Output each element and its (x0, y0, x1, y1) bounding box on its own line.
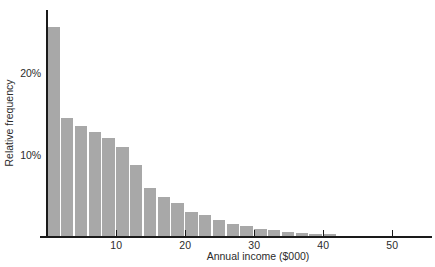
x-tick-label: 20 (179, 239, 191, 251)
histogram-bar (75, 126, 87, 237)
x-tick-label: 30 (248, 239, 260, 251)
histogram-bar (89, 132, 101, 237)
histogram-bar (213, 220, 225, 237)
histogram-bar (227, 224, 239, 237)
x-tick-label: 10 (110, 239, 122, 251)
bars-group (47, 27, 335, 237)
histogram-chart: 1020304050 10%20% Annual income ($000) R… (0, 0, 435, 267)
x-tick-label: 50 (386, 239, 398, 251)
chart-canvas: 1020304050 10%20% Annual income ($000) R… (0, 0, 435, 267)
histogram-bar (185, 212, 197, 237)
histogram-bar (199, 215, 211, 236)
x-tick-label: 40 (317, 239, 329, 251)
x-axis-title: Annual income ($000) (207, 250, 310, 262)
histogram-bar (47, 27, 59, 237)
histogram-bar (171, 203, 183, 237)
y-tick-label: 10% (20, 149, 41, 161)
histogram-bar (116, 147, 128, 236)
y-tick-label: 20% (20, 67, 41, 79)
y-axis-title: Relative frequency (3, 79, 15, 167)
histogram-bar (102, 138, 114, 237)
histogram-bar (144, 188, 156, 237)
histogram-bar (158, 197, 170, 236)
histogram-bar (268, 230, 280, 237)
histogram-bar (254, 229, 266, 237)
histogram-bar (61, 118, 73, 237)
histogram-bar (240, 226, 252, 237)
histogram-bar (130, 165, 142, 237)
y-tick-label-group: 10%20% (20, 67, 41, 161)
